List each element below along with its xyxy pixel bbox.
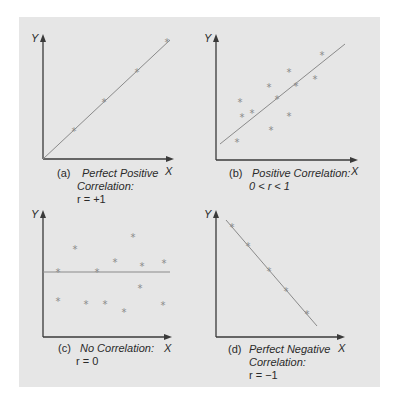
- data-point: *: [269, 125, 274, 136]
- data-point: *: [238, 97, 243, 108]
- data-point: *: [246, 241, 251, 252]
- data-point: *: [275, 94, 280, 105]
- correlation-figure: Y X * * * * (a) Perfect Positive Correla…: [0, 0, 396, 403]
- data-point: *: [230, 222, 235, 233]
- data-point: *: [138, 283, 143, 294]
- panel-title-line1: Perfect Positive: [82, 167, 158, 179]
- data-point: *: [161, 300, 166, 311]
- panel-title-line1: No Correlation:: [80, 342, 154, 354]
- panel-caption: (a): [57, 167, 70, 179]
- data-point: *: [95, 267, 100, 278]
- panel-letter: (b): [229, 167, 242, 179]
- panel-letter: (a): [57, 167, 70, 179]
- data-point: *: [235, 137, 240, 148]
- data-point: *: [313, 74, 318, 85]
- data-point: *: [56, 267, 61, 278]
- data-point: *: [131, 232, 136, 243]
- data-point: *: [135, 67, 140, 78]
- panel-stat: r = −1: [249, 369, 278, 381]
- data-point: *: [140, 261, 145, 272]
- data-point: *: [287, 67, 292, 78]
- data-point: *: [284, 286, 289, 297]
- data-point: *: [320, 50, 325, 61]
- panel-letter: (c): [58, 342, 71, 354]
- y-axis-label: Y: [204, 208, 212, 220]
- x-axis-label: X: [164, 165, 173, 177]
- panel-title-line1: Positive Correlation:: [252, 167, 350, 179]
- data-point: *: [72, 126, 77, 137]
- panel-stat: 0 < r < 1: [249, 180, 290, 192]
- data-point: *: [162, 258, 167, 269]
- data-point: *: [287, 111, 292, 122]
- data-point: *: [294, 81, 299, 92]
- figure-background: [19, 17, 380, 387]
- y-axis-label: Y: [31, 208, 39, 220]
- panel-letter: (d): [228, 343, 241, 355]
- panel-stat: r = +1: [77, 193, 106, 205]
- data-point: *: [102, 97, 107, 108]
- y-axis-label: Y: [31, 32, 39, 44]
- data-point: *: [267, 82, 272, 93]
- x-axis-label: X: [163, 342, 172, 354]
- data-point: *: [267, 266, 272, 277]
- data-point: *: [250, 108, 255, 119]
- data-point: *: [122, 307, 127, 318]
- panel-title-line2: Correlation:: [249, 356, 306, 368]
- panel-stat: r = 0: [76, 355, 98, 367]
- data-point: *: [84, 299, 89, 310]
- x-axis-label: X: [350, 165, 359, 177]
- data-point: *: [113, 257, 118, 268]
- x-axis-label: X: [337, 342, 346, 354]
- data-point: *: [56, 296, 61, 307]
- data-point: *: [240, 112, 245, 123]
- panel-title-line1: Perfect Negative: [249, 343, 330, 355]
- data-point: *: [103, 299, 108, 310]
- panel-title-line2: Correlation:: [77, 180, 134, 192]
- data-point: *: [73, 244, 78, 255]
- data-point: *: [305, 309, 310, 320]
- y-axis-label: Y: [204, 32, 212, 44]
- data-point: *: [165, 37, 170, 48]
